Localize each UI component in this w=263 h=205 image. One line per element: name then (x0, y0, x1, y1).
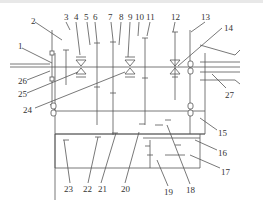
part-label-27: 27 (225, 91, 234, 100)
part-label-8: 8 (119, 13, 124, 22)
part-label-20: 20 (121, 185, 130, 194)
part-label-13: 13 (201, 13, 210, 22)
part-label-15: 15 (218, 129, 227, 138)
part-label-9: 9 (128, 13, 133, 22)
part-label-22: 22 (83, 185, 92, 194)
part-label-11: 11 (146, 13, 155, 22)
part-label-12: 12 (171, 13, 180, 22)
part-label-1: 1 (18, 42, 23, 51)
part-label-25: 25 (18, 90, 27, 99)
part-label-24: 24 (23, 106, 32, 115)
part-label-26: 26 (18, 77, 27, 86)
part-label-6: 6 (93, 13, 98, 22)
part-label-4: 4 (74, 13, 79, 22)
part-label-2: 2 (31, 17, 36, 26)
part-label-16: 16 (218, 149, 227, 158)
part-label-7: 7 (108, 13, 113, 22)
part-label-14: 14 (224, 24, 233, 33)
part-label-10: 10 (135, 13, 144, 22)
housing (55, 53, 205, 134)
part-label-23: 23 (64, 185, 73, 194)
part-label-5: 5 (84, 13, 89, 22)
part-label-18: 18 (186, 186, 195, 195)
part-label-17: 17 (221, 168, 230, 177)
part-label-21: 21 (98, 185, 107, 194)
part-label-3: 3 (64, 13, 69, 22)
part-label-19: 19 (164, 188, 173, 197)
